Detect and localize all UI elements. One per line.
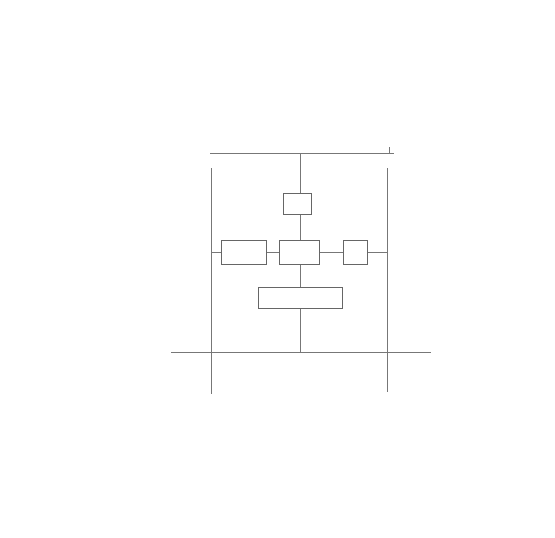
- root-node: [279, 240, 320, 265]
- engineering-standard-node: [221, 240, 267, 265]
- root-to-general-line: [320, 252, 343, 253]
- engineering-to-root-line: [267, 252, 279, 253]
- general-standard-node: [343, 240, 368, 265]
- identification-standard-node: [283, 193, 312, 215]
- general-to-right-list-line: [368, 252, 387, 253]
- top-trunk-line: [300, 153, 301, 193]
- left-list-spine: [211, 168, 212, 394]
- ident-to-root-line: [300, 215, 301, 240]
- specific-trunk-line: [300, 309, 301, 352]
- right-list-spine: [387, 168, 388, 392]
- left-list-to-engineering-line: [211, 252, 221, 253]
- bottom-connector-bar: [171, 352, 431, 353]
- top-right-link-line: [389, 147, 390, 153]
- root-to-specific-line: [300, 265, 301, 287]
- top-connector-bar: [210, 153, 394, 154]
- specific-category-node: [258, 287, 343, 309]
